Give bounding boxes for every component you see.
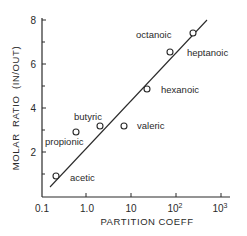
label-propionic: propionic	[45, 136, 84, 147]
data-points	[53, 30, 196, 179]
chart: 8 6 4 2 0.1 1.0 10 102 103 PARTITION COE…	[0, 0, 247, 236]
y-tick-label-4: 4	[30, 103, 36, 114]
y-tick-label-8: 8	[30, 15, 36, 26]
point-butyric	[97, 123, 103, 129]
label-octanoic: octanoic	[136, 29, 172, 40]
label-acetic: acetic	[70, 172, 95, 183]
point-propionic	[73, 129, 79, 135]
label-hexanoic: hexanoic	[161, 84, 199, 95]
x-tick-label-10-2: 102	[167, 202, 182, 214]
fit-line	[50, 20, 207, 187]
x-tick-label-10-3: 103	[212, 202, 227, 214]
x-axis-title-partition: PARTITION	[100, 216, 155, 227]
y-tick-label-2: 2	[30, 147, 36, 158]
point-valeric	[121, 123, 127, 129]
label-butyric: butyric	[74, 111, 102, 122]
point-hexanoic	[144, 86, 150, 92]
x-axis-title-coeff: COEFF	[158, 216, 193, 227]
point-heptanoic	[167, 49, 173, 55]
x-tick-label-1.0: 1.0	[80, 203, 94, 214]
point-octanoic	[190, 30, 196, 36]
point-acetic	[53, 173, 59, 179]
label-valeric: valeric	[137, 120, 165, 131]
x-tick-label-10: 10	[125, 203, 137, 214]
x-tick-label-0.1: 0.1	[35, 203, 49, 214]
y-axis-title: MOLAR RATIO (IN/OUT)	[10, 46, 21, 170]
label-heptanoic: heptanoic	[187, 47, 228, 58]
y-tick-label-6: 6	[30, 59, 36, 70]
